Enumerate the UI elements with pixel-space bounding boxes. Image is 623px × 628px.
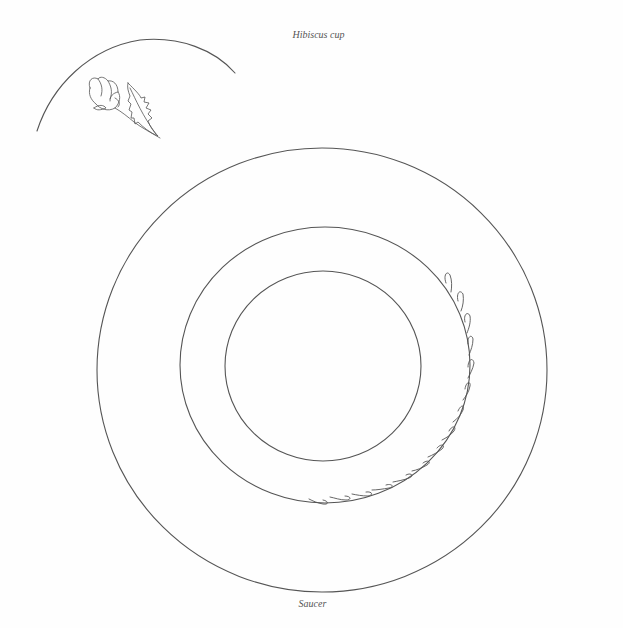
drawing-canvas [0,0,623,628]
drawing-sheet: Hibiscus cup [0,0,623,628]
hibiscus-bud-icon [89,77,160,138]
saucer-middle-ring [180,227,470,503]
saucer-caption: Saucer [0,598,623,609]
saucer-outer-rim [97,148,547,592]
saucer-inner-ring [225,271,421,461]
leaf-border-decoration [309,273,474,504]
cup-rim-arc [37,39,235,131]
